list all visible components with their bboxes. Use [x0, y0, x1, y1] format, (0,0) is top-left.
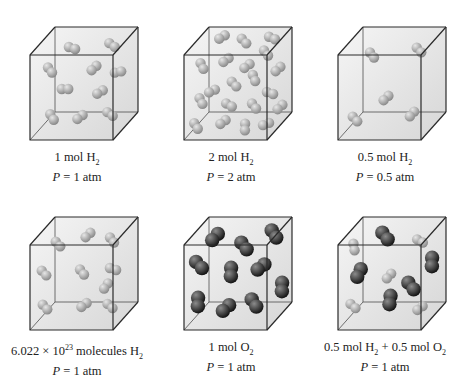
panel-caption: 1 mol H2P = 1 atm [0, 150, 154, 185]
pressure-label: P = 1 atm [0, 170, 154, 185]
panel-caption: 1 mol O2P = 1 atm [154, 340, 308, 375]
container-cube [308, 190, 462, 340]
gas-panel-0.5mol-h2: 0.5 mol H2P = 0.5 atm [308, 0, 462, 185]
pressure-label: P = 2 atm [154, 170, 308, 185]
container-cube [308, 0, 462, 150]
amount-label: 1 mol H2 [0, 150, 154, 170]
h2-molecule [240, 119, 251, 136]
o2-molecule [191, 291, 206, 314]
o2-molecule [275, 276, 290, 299]
container-cube [154, 190, 308, 340]
pressure-label: P = 1 atm [288, 360, 462, 375]
o2-molecule [224, 261, 239, 284]
amount-label: 0.5 mol H2 [308, 150, 462, 170]
amount-label: 1 mol O2 [154, 340, 308, 360]
amount-label: 6.022 × 1023 molecules H2 [0, 340, 174, 364]
gas-panel-1mol-o2: 1 mol O2P = 1 atm [154, 190, 308, 375]
panel-caption: 6.022 × 1023 molecules H2P = 1 atm [0, 340, 174, 375]
amount-label: 0.5 mol H2 + 0.5 mol O2 [288, 340, 462, 360]
container-cube [154, 0, 308, 150]
gas-panel-2mol-h2: 2 mol H2P = 2 atm [154, 0, 308, 185]
gas-panel-mix-h2-o2: 0.5 mol H2 + 0.5 mol O2P = 1 atm [308, 190, 462, 375]
o2-molecule [425, 251, 440, 274]
amount-label: 2 mol H2 [154, 150, 308, 170]
gas-panel-1mol-h2: 1 mol H2P = 1 atm [0, 0, 154, 185]
panel-caption: 0.5 mol H2P = 0.5 atm [308, 150, 462, 185]
o2-molecule [382, 289, 397, 312]
pressure-label: P = 1 atm [0, 364, 174, 375]
pressure-label: P = 1 atm [154, 360, 308, 375]
container-cube [0, 0, 154, 150]
pressure-label: P = 0.5 atm [308, 170, 462, 185]
container-cube [0, 190, 154, 340]
gas-panel-avogadro-h2: 6.022 × 1023 molecules H2P = 1 atm [0, 190, 154, 375]
h2-molecule [57, 84, 74, 94]
panel-caption: 2 mol H2P = 2 atm [154, 150, 308, 185]
panel-caption: 0.5 mol H2 + 0.5 mol O2P = 1 atm [288, 340, 462, 375]
